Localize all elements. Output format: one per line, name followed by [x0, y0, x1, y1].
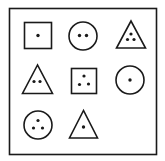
cell-r3-c2-triangle-1-dot: [70, 111, 98, 139]
circle-shape: [69, 22, 97, 50]
dot: [78, 83, 81, 86]
cell-r3-c1-circle-3-dots: [24, 111, 52, 139]
cell-r2-c1-triangle-2-dots: [23, 65, 53, 94]
dot: [36, 119, 39, 122]
puzzle-figure: [0, 0, 165, 161]
dot: [87, 82, 90, 85]
triangle-shape: [23, 65, 53, 94]
dot: [129, 32, 132, 35]
triangle-shape: [70, 111, 98, 139]
dot: [32, 126, 35, 129]
dot: [85, 34, 88, 37]
dot: [132, 38, 135, 41]
outer-frame: [10, 9, 157, 155]
cell-r2-c2-square-3-dots: [72, 69, 97, 94]
dot: [32, 80, 35, 83]
dot: [41, 126, 44, 129]
cell-r2-c3-circle-1-dot: [116, 66, 144, 94]
matrix-diagram: [0, 0, 165, 161]
circle-shape: [24, 111, 52, 139]
square-shape: [72, 69, 97, 94]
dot: [78, 34, 81, 37]
dot: [82, 74, 85, 77]
cell-r1-c3-triangle-3-dots: [117, 21, 146, 48]
dot: [126, 38, 129, 41]
cell-r1-c2-circle-2-dots: [69, 22, 97, 50]
dot: [38, 80, 41, 83]
dot: [82, 125, 85, 128]
cell-r1-c1-square-1-dot: [25, 23, 52, 49]
dot: [128, 78, 131, 81]
dot: [36, 34, 39, 37]
